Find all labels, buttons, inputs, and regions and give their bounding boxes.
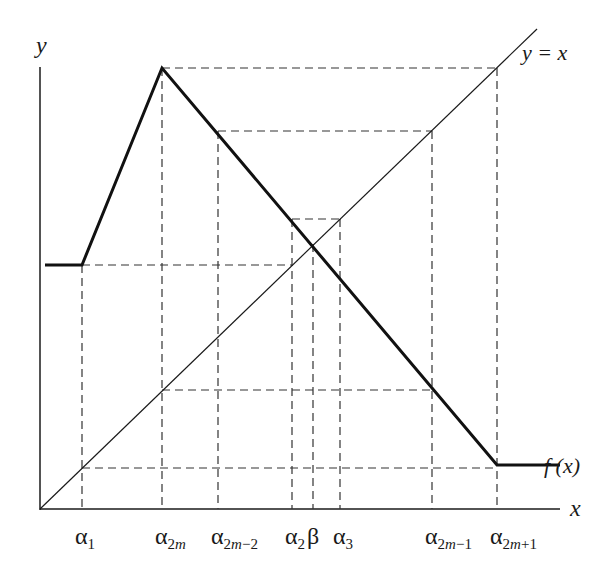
function-label: f (x): [544, 455, 580, 477]
x-tick-label-beta: β: [307, 524, 319, 548]
x-tick-label-alpha1: α1: [75, 524, 95, 552]
x-axis-label: x: [570, 496, 581, 520]
function-curve: [45, 68, 560, 465]
identity-line-label: y = x: [522, 42, 567, 64]
x-tick-label-alpha2m-1: α2m−1: [425, 524, 472, 552]
x-tick-label-alpha2m+1: α2m+1: [490, 524, 537, 552]
y-axis-label: y: [36, 33, 47, 57]
x-tick-label-alpha2: α2: [285, 524, 305, 552]
x-tick-label-alpha3: α3: [333, 524, 353, 552]
plot-canvas: [0, 0, 614, 571]
x-tick-label-alpha2m: α2m: [155, 524, 186, 552]
identity-line: [40, 29, 537, 509]
dashed-guides: [82, 68, 497, 509]
x-tick-label-alpha2m-2: α2m−2: [211, 524, 258, 552]
cobweb-diagram: y x y = x f (x) α1α2mα2m−2α2βα3α2m−1α2m+…: [0, 0, 614, 571]
